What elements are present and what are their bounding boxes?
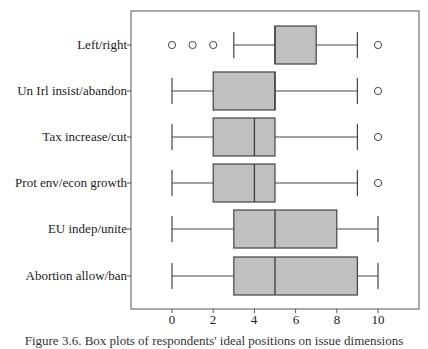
iqr-box <box>213 164 275 202</box>
category-label-eu: EU indep/unite <box>48 221 127 237</box>
iqr-box <box>213 72 275 110</box>
x-tick-label-2: 2 <box>198 312 228 328</box>
outlier-point <box>168 41 175 48</box>
x-tick-label-0: 0 <box>157 312 187 328</box>
outlier-point <box>210 41 217 48</box>
boxplot-3 <box>172 164 382 202</box>
category-label-left-right: Left/right <box>77 37 127 53</box>
outlier-point <box>374 41 381 48</box>
outlier-point <box>189 41 196 48</box>
boxplot-0 <box>168 26 381 64</box>
x-tick-label-10: 10 <box>363 312 393 328</box>
boxplot-2 <box>172 118 382 156</box>
boxplot-1 <box>172 72 382 110</box>
category-label-abortion: Abortion allow/ban <box>26 268 127 284</box>
iqr-box <box>213 118 275 156</box>
category-label-un-irl: Un Irl insist/abandon <box>17 83 127 99</box>
x-tick-label-6: 6 <box>281 312 311 328</box>
figure-caption: Figure 3.6. Box plots of respondents' id… <box>0 333 428 349</box>
boxplot-4 <box>172 210 378 248</box>
x-tick-label-4: 4 <box>239 312 269 328</box>
category-label-prot-env: Prot env/econ growth <box>15 175 127 191</box>
outlier-point <box>374 133 381 140</box>
category-label-tax: Tax increase/cut <box>42 129 127 145</box>
iqr-box <box>275 26 316 64</box>
outlier-point <box>374 87 381 94</box>
iqr-box <box>234 210 337 248</box>
outlier-point <box>374 179 381 186</box>
iqr-box <box>234 257 358 295</box>
boxplot-5 <box>172 257 378 295</box>
x-tick-label-8: 8 <box>322 312 352 328</box>
